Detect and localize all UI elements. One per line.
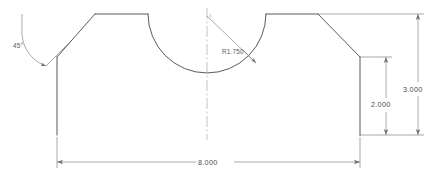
- angle-arc: [22, 34, 46, 66]
- technical-drawing-canvas: ¢ 45° R1.750 2.: [0, 0, 435, 180]
- radius-dimension-group: [207, 16, 256, 63]
- radius-arrow-segment: [243, 50, 256, 63]
- angle-leader-line: [46, 38, 74, 66]
- height-overall-dimension-group: [318, 14, 424, 135]
- drawing-svg: ¢ 45° R1.750 2.: [0, 0, 435, 180]
- right-chamfer-edge: [318, 14, 360, 57]
- height-inner-dimension-group: [360, 57, 392, 135]
- part-outline-group: [57, 14, 360, 135]
- inner-height-dimension-label: 2.000: [371, 100, 391, 109]
- angle-dimension-group: [22, 14, 74, 66]
- width-dimension-label: 8.000: [198, 158, 218, 167]
- centerline-symbol: ¢: [210, 14, 212, 18]
- overall-height-dimension-label: 3.000: [403, 85, 423, 94]
- centerline-group: ¢: [207, 8, 212, 140]
- radius-dimension-label: R1.750: [222, 48, 244, 55]
- angle-dimension-label: 45°: [13, 42, 24, 49]
- left-chamfer-edge: [57, 14, 95, 57]
